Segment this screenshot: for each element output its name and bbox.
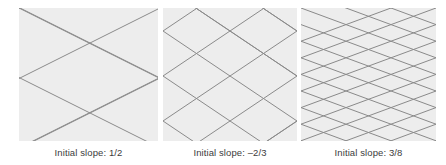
- lattice-lines-2: [163, 8, 297, 141]
- lattice-lines-1: [19, 8, 158, 141]
- lattice-svg-2: [163, 8, 297, 141]
- panel-group-3: Initial slope: 3/8: [301, 0, 436, 165]
- lattice-lines-3: [301, 8, 436, 141]
- lattice-figure: Initial slope: 1/2: [0, 0, 446, 165]
- panel-caption-2: Initial slope: –2/3: [163, 145, 297, 161]
- lattice-panel-3: [301, 8, 436, 141]
- panel-group-2: Initial slope: –2/3: [163, 0, 297, 165]
- lattice-svg-1: [19, 8, 158, 141]
- lattice-panel-1: [19, 8, 158, 141]
- lattice-svg-3: [301, 8, 436, 141]
- lattice-panel-2: [163, 8, 297, 141]
- panel-group-1: Initial slope: 1/2: [19, 0, 158, 165]
- panel-caption-3: Initial slope: 3/8: [301, 145, 436, 161]
- panel-caption-1: Initial slope: 1/2: [19, 145, 158, 161]
